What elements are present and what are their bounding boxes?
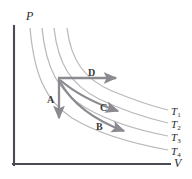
process-label-B: B — [96, 122, 103, 132]
isotherm-label-T4: T4 — [171, 146, 181, 157]
isotherm-label-T1: T1 — [171, 106, 181, 117]
process-label-D: D — [88, 68, 95, 78]
process-arrows — [58, 78, 124, 131]
process-label-C: C — [100, 103, 107, 113]
isotherm-label-T2: T2 — [171, 119, 181, 130]
isotherm-label-T3-sub: 3 — [177, 137, 181, 145]
pv-diagram-figure: P V T1 T2 T3 T4 A B C D — [0, 0, 192, 179]
diagram-canvas — [0, 0, 192, 179]
isotherm-label-T3: T3 — [171, 132, 181, 143]
process-label-A: A — [47, 95, 54, 105]
y-axis-label: P — [26, 10, 33, 22]
isotherm-label-T1-sub: 1 — [177, 111, 181, 119]
isotherm-label-T2-sub: 2 — [177, 124, 181, 132]
isotherm-label-T4-sub: 4 — [177, 151, 181, 159]
isotherm-curve-T1 — [67, 28, 168, 110]
